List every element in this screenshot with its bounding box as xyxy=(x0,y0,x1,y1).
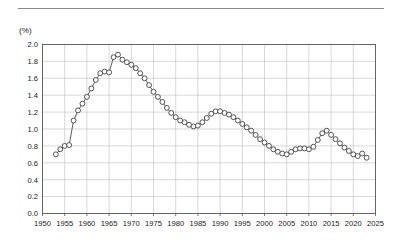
y-axis-tick-label: 0.8 xyxy=(27,142,38,151)
x-axis-tick-label: 2020 xyxy=(345,219,362,228)
data-point-marker xyxy=(311,144,316,149)
data-point-marker xyxy=(151,89,156,94)
data-point-marker xyxy=(84,94,89,99)
x-axis-tick-label: 1955 xyxy=(56,219,73,228)
data-point-marker xyxy=(244,125,249,130)
y-axis-tick-label: 1.6 xyxy=(27,74,38,83)
x-axis-tick-label: 2010 xyxy=(300,219,317,228)
x-axis-tick-label: 2000 xyxy=(256,219,273,228)
data-point-marker xyxy=(231,115,236,120)
data-point-marker xyxy=(89,86,94,91)
data-point-marker xyxy=(147,83,152,88)
data-point-marker xyxy=(346,149,351,154)
plot-area-wrapper: 0.00.20.40.60.81.01.21.41.61.82.0 195019… xyxy=(0,0,402,250)
x-axis-tick-label: 2015 xyxy=(323,219,340,228)
data-point-marker xyxy=(266,143,271,148)
data-point-marker xyxy=(360,151,365,156)
y-axis-tick-label: 1.2 xyxy=(27,108,38,117)
data-point-marker xyxy=(155,94,160,99)
figure-container: (%) 0.00.20.40.60.81.01.21.41.61.82.0 19… xyxy=(0,0,402,250)
data-point-marker xyxy=(76,108,81,113)
data-point-marker xyxy=(53,152,58,157)
x-axis-tick-label: 1975 xyxy=(145,219,162,228)
data-point-marker xyxy=(195,123,200,128)
data-point-marker xyxy=(116,52,121,57)
data-point-marker xyxy=(160,100,165,105)
series-markers xyxy=(53,52,369,160)
data-point-marker xyxy=(200,120,205,125)
x-axis-tick-label: 2025 xyxy=(367,219,384,228)
x-axis-tick-label: 2005 xyxy=(278,219,295,228)
data-point-marker xyxy=(80,101,85,106)
y-axis-tick-label: 0.6 xyxy=(27,159,38,168)
data-point-marker xyxy=(235,118,240,123)
y-axis-tick-labels: 0.00.20.40.60.81.01.21.41.61.82.0 xyxy=(27,40,38,218)
y-axis-tick-label: 2.0 xyxy=(27,40,38,49)
x-axis-tick-label: 1950 xyxy=(34,219,51,228)
line-chart: 0.00.20.40.60.81.01.21.41.61.82.0 195019… xyxy=(0,0,402,250)
data-point-marker xyxy=(107,70,112,75)
x-axis-tick-label: 1995 xyxy=(234,219,251,228)
data-point-marker xyxy=(262,140,267,145)
data-point-marker xyxy=(333,137,338,142)
data-point-marker xyxy=(249,128,254,133)
y-axis-tick-label: 0.2 xyxy=(27,192,38,201)
data-point-marker xyxy=(342,145,347,150)
data-point-marker xyxy=(129,62,134,67)
x-axis-tick-label: 1980 xyxy=(167,219,184,228)
data-point-marker xyxy=(338,141,343,146)
data-point-marker xyxy=(164,105,169,110)
y-axis-tick-label: 0.0 xyxy=(27,209,38,218)
data-point-marker xyxy=(173,115,178,120)
data-point-marker xyxy=(169,111,174,116)
data-point-marker xyxy=(240,121,245,126)
x-axis-tick-label: 1960 xyxy=(78,219,95,228)
x-axis-tick-labels: 1950195519601965197019751980198519901995… xyxy=(34,219,384,228)
x-axis-tick-label: 1970 xyxy=(123,219,140,228)
data-point-marker xyxy=(67,143,72,148)
data-point-marker xyxy=(93,78,98,83)
data-point-marker xyxy=(138,71,143,76)
data-point-marker xyxy=(258,137,263,142)
data-point-marker xyxy=(329,132,334,137)
y-axis-tick-label: 0.4 xyxy=(27,176,38,185)
data-point-marker xyxy=(58,147,63,152)
x-axis-tick-label: 1985 xyxy=(189,219,206,228)
data-point-marker xyxy=(364,155,369,160)
data-point-marker xyxy=(324,128,329,133)
data-point-marker xyxy=(71,118,76,123)
y-axis-tick-label: 1.8 xyxy=(27,57,38,66)
data-point-marker xyxy=(133,66,138,71)
y-axis-tick-label: 1.0 xyxy=(27,125,38,134)
data-point-marker xyxy=(204,116,209,121)
x-axis-tick-label: 1990 xyxy=(212,219,229,228)
data-point-marker xyxy=(253,132,258,137)
data-point-marker xyxy=(142,76,147,81)
x-axis-tick-label: 1965 xyxy=(101,219,118,228)
y-axis-tick-label: 1.4 xyxy=(27,91,38,100)
data-point-marker xyxy=(315,138,320,143)
